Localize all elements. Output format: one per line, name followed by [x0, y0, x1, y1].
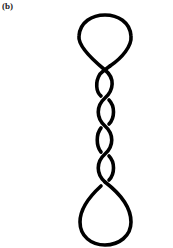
twist-strand-1	[98, 70, 112, 182]
knot-bottom-loop	[80, 182, 131, 245]
knot-strand-a	[79, 15, 131, 70]
twisted-knot-diagram	[0, 0, 173, 248]
